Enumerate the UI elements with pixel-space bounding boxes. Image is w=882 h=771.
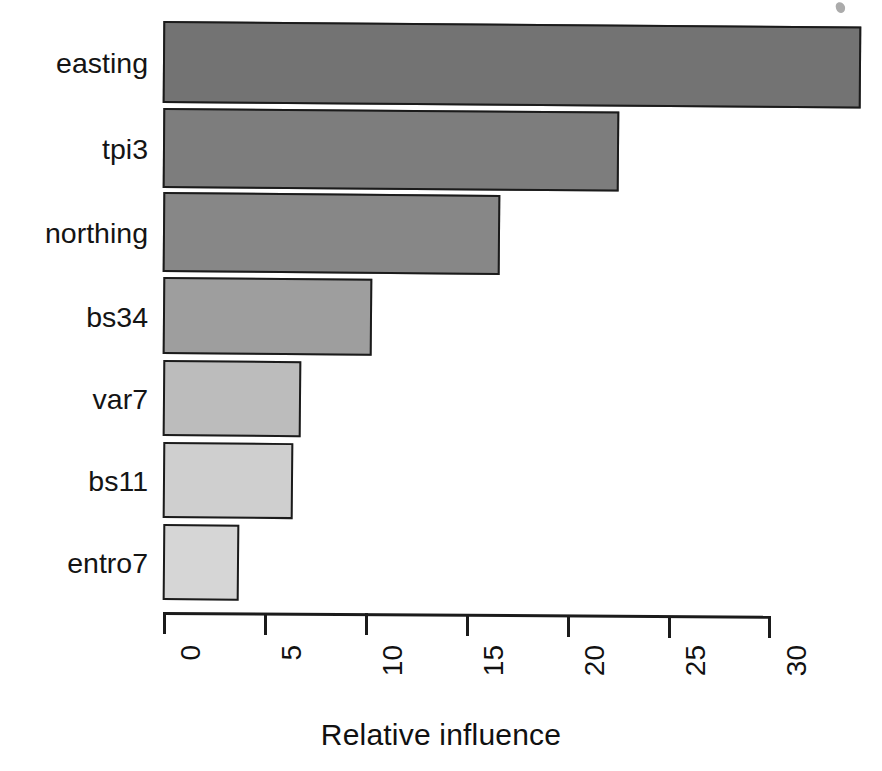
category-label-entro7: entro7 xyxy=(0,547,148,580)
bar-entro7 xyxy=(163,524,240,601)
x-axis-tick-0 xyxy=(163,612,166,634)
x-axis-tick-5 xyxy=(264,613,267,635)
category-label-bs34: bs34 xyxy=(0,301,148,334)
chart-row: easting xyxy=(0,21,882,103)
chart-row: tpi3 xyxy=(0,108,882,188)
bar-easting xyxy=(163,21,862,108)
x-axis-tick-30 xyxy=(768,616,771,638)
x-axis-tick-label-5: 5 xyxy=(276,645,308,661)
x-axis-tick-25 xyxy=(668,616,671,638)
category-label-var7: var7 xyxy=(0,383,148,416)
chart-row: var7 xyxy=(0,360,882,436)
plot-area: easting tpi3 northing bs34 var7 bs11 xyxy=(0,0,882,600)
x-axis-tick-10 xyxy=(365,613,368,635)
chart-row: entro7 xyxy=(0,524,882,600)
x-axis-tick-label-15: 15 xyxy=(478,645,510,676)
x-axis-tick-label-10: 10 xyxy=(377,645,409,676)
bar-bs34 xyxy=(163,277,373,356)
bar-tpi3 xyxy=(163,108,620,192)
x-axis-tick-label-0: 0 xyxy=(175,645,207,661)
x-axis-tick-15 xyxy=(466,614,469,636)
x-axis-title: Relative influence xyxy=(0,718,882,752)
x-axis-tick-label-20: 20 xyxy=(579,645,611,676)
category-label-tpi3: tpi3 xyxy=(0,133,148,166)
category-label-bs11: bs11 xyxy=(0,465,148,498)
category-label-northing: northing xyxy=(0,217,148,250)
chart-row: bs11 xyxy=(0,442,882,518)
x-axis-tick-label-30: 30 xyxy=(781,645,813,676)
x-axis-tick-label-25: 25 xyxy=(680,645,712,676)
x-axis-tick-20 xyxy=(567,615,570,637)
category-label-easting: easting xyxy=(0,47,148,80)
bar-bs11 xyxy=(163,442,294,519)
chart-row: northing xyxy=(0,192,882,272)
chart-row: bs34 xyxy=(0,277,882,354)
bar-var7 xyxy=(163,360,302,437)
relative-influence-bar-chart: easting tpi3 northing bs34 var7 bs11 xyxy=(0,0,882,771)
bar-northing xyxy=(163,192,501,275)
